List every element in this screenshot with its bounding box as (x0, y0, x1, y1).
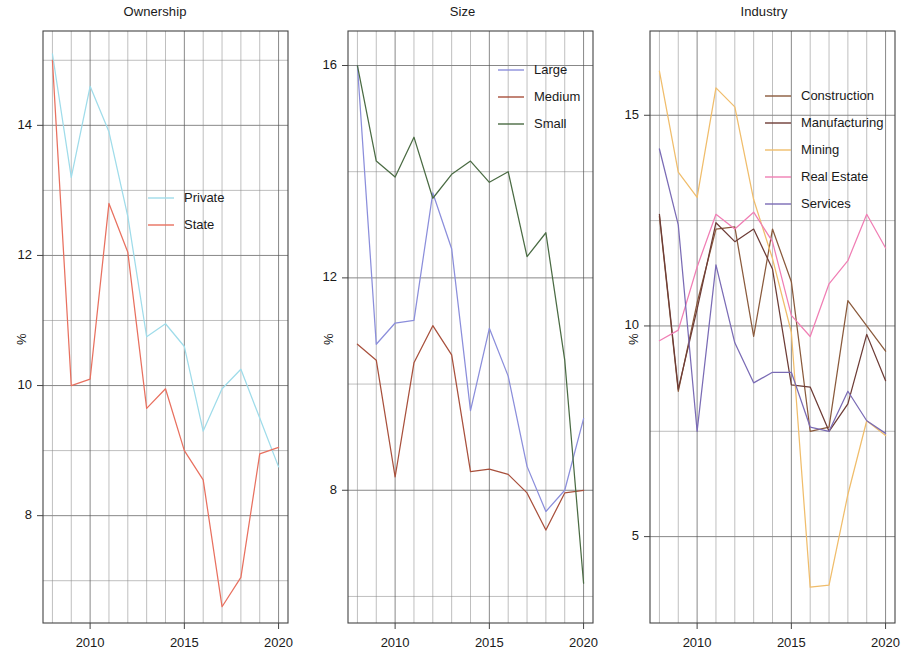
y-tick-label: 5 (632, 528, 639, 543)
legend: ConstructionManufacturingMiningReal Esta… (765, 88, 883, 211)
legend: PrivateState (148, 190, 224, 232)
y-tick-label: 15 (625, 107, 639, 122)
plot-area-size: 81216201020152020LargeMediumSmall (310, 0, 615, 662)
legend-label-manufacturing: Manufacturing (801, 115, 883, 130)
y-tick-label: 8 (25, 507, 32, 522)
y-tick-label: 10 (625, 317, 639, 332)
legend-label-state: State (184, 217, 214, 232)
x-tick-label: 2015 (777, 635, 806, 650)
legend-label-real-estate: Real Estate (801, 169, 868, 184)
y-tick-label: 12 (323, 269, 337, 284)
panel-industry: Industry % 51015201020152020Construction… (615, 0, 913, 662)
x-tick-label: 2015 (170, 635, 199, 650)
panel-ownership: Ownership % 8101214201020152020PrivateSt… (0, 0, 310, 662)
figure-root: Ownership % 8101214201020152020PrivateSt… (0, 0, 913, 662)
legend-label-mining: Mining (801, 142, 839, 157)
x-tick-label: 2020 (871, 635, 900, 650)
y-tick-label: 14 (18, 117, 32, 132)
x-tick-label: 2010 (76, 635, 105, 650)
y-tick-label: 10 (18, 377, 32, 392)
x-tick-label: 2015 (475, 635, 504, 650)
x-tick-label: 2010 (381, 635, 410, 650)
legend-label-small: Small (534, 116, 567, 131)
legend-label-large: Large (534, 62, 567, 77)
y-tick-label: 16 (323, 57, 337, 72)
legend: LargeMediumSmall (498, 62, 580, 131)
x-tick-label: 2020 (569, 635, 598, 650)
plot-area-ownership: 8101214201020152020PrivateState (0, 0, 310, 662)
y-tick-label: 8 (330, 482, 337, 497)
legend-label-private: Private (184, 190, 224, 205)
x-tick-label: 2010 (683, 635, 712, 650)
legend-label-services: Services (801, 196, 851, 211)
legend-label-medium: Medium (534, 89, 580, 104)
plot-area-industry: 51015201020152020ConstructionManufacturi… (615, 0, 913, 662)
panel-size: Size % 81216201020152020LargeMediumSmall (310, 0, 615, 662)
legend-label-construction: Construction (801, 88, 874, 103)
y-tick-label: 12 (18, 247, 32, 262)
x-tick-label: 2020 (264, 635, 293, 650)
